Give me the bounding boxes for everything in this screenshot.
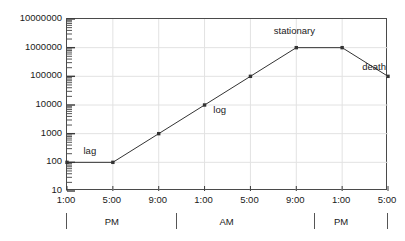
x-axis-tick-label: 5:00	[240, 194, 259, 205]
phase-annotation-label: stationary	[274, 25, 315, 36]
x-axis-tick-label: 1:00	[57, 194, 76, 205]
x-axis-tick-label: 9:00	[148, 194, 167, 205]
data-series	[67, 19, 388, 191]
y-axis-tick-label: 1000	[0, 128, 62, 138]
x-axis-period-label: PM	[105, 216, 119, 227]
x-axis-labels: 1:005:009:001:005:009:001:005:00	[0, 192, 405, 208]
y-axis-tick-label: 10000	[0, 99, 62, 109]
y-axis-tick-label: 100000	[0, 70, 62, 80]
y-axis-tick-label: 10000000	[0, 13, 62, 23]
phase-annotation-label: lag	[84, 145, 97, 156]
x-axis-tick-label: 9:00	[286, 194, 305, 205]
x-axis-tick-label: 5:00	[378, 194, 397, 205]
x-axis-tick-label: 5:00	[103, 194, 122, 205]
y-axis-tick-label: 100	[0, 156, 62, 166]
x-axis-period-band: PMAMPM	[0, 208, 405, 236]
phase-annotation-label: log	[213, 104, 226, 115]
x-axis-tick-label: 1:00	[194, 194, 213, 205]
plot-area	[66, 18, 387, 190]
x-axis-tick-label: 1:00	[332, 194, 351, 205]
x-axis-period-label: PM	[334, 216, 348, 227]
period-divider-tick	[176, 213, 177, 229]
x-axis-period-label: AM	[219, 216, 233, 227]
period-divider-tick	[66, 213, 67, 229]
phase-annotation-label: death	[362, 61, 386, 72]
period-divider-tick	[387, 213, 388, 229]
y-axis-tick-label: 1000000	[0, 42, 62, 52]
growth-curve-chart: 10100100010000100000100000010000000 1:00…	[0, 0, 405, 241]
period-divider-tick	[314, 213, 315, 229]
